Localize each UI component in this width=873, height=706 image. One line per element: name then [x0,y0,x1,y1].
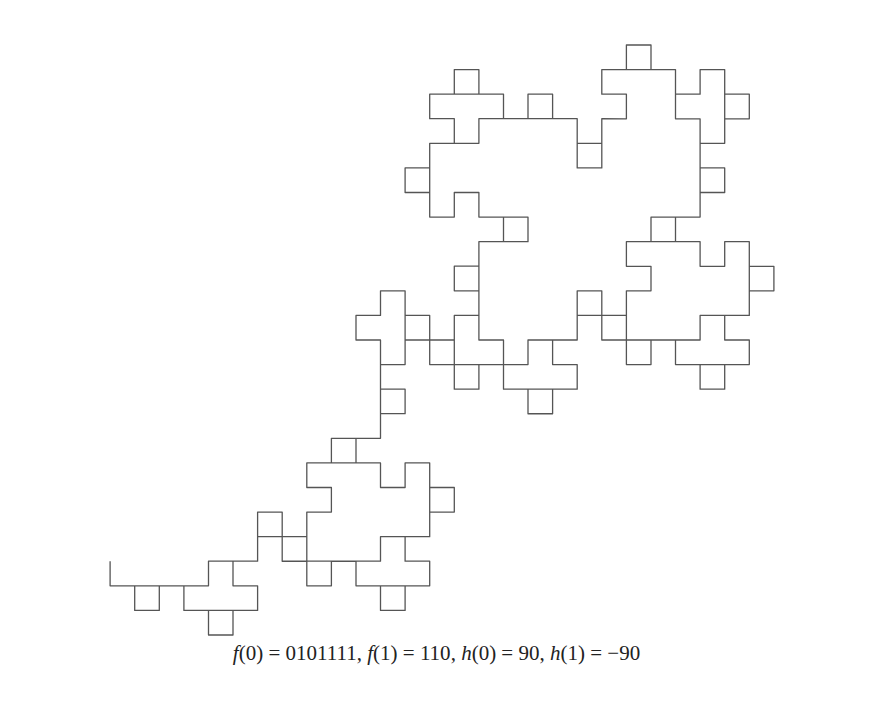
caption-term-1: f(1) = 110 [367,641,450,665]
fractal-figure [0,0,873,640]
caption-term-3: h(1) = −90 [550,641,640,665]
fractal-curve [0,0,873,640]
caption-term-0: f(0) = 0101111 [233,641,357,665]
caption-term-2: h(0) = 90 [461,641,539,665]
fractal-path [110,45,774,635]
figure-caption: f(0) = 0101111, f(1) = 110, h(0) = 90, h… [0,641,873,666]
